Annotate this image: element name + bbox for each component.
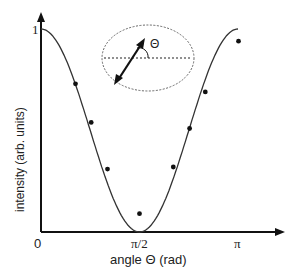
chart-plot: [0, 0, 297, 278]
data-point: [236, 39, 241, 44]
x-tick-half-pi: π/2: [131, 236, 148, 252]
inset-theta-label: Θ: [150, 37, 159, 51]
y-axis-label: intensity (arb. units): [13, 107, 27, 212]
x-tick-0: 0: [34, 236, 41, 251]
data-point: [105, 167, 110, 172]
chart-figure: Θ 1 0 π/2 π angle Θ (rad) intensity (arb…: [0, 0, 297, 278]
fit-curve: [41, 29, 238, 232]
x-axis-label: angle Θ (rad): [110, 252, 187, 267]
y-tick-1: 1: [32, 22, 39, 38]
data-point: [171, 165, 176, 170]
axes: [37, 12, 285, 236]
data-point: [203, 90, 208, 95]
x-tick-pi: π: [234, 236, 241, 252]
data-points: [73, 39, 241, 216]
data-point: [137, 211, 142, 216]
data-point: [73, 81, 78, 86]
data-point: [89, 120, 94, 125]
polarization-inset: [102, 25, 194, 91]
data-point: [187, 126, 192, 131]
